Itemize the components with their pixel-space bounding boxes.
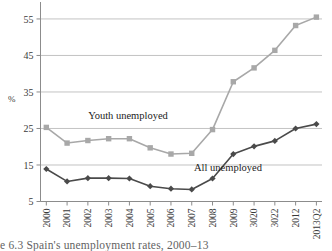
series-all-unemployed <box>43 121 319 193</box>
data-point-marker <box>251 65 256 70</box>
data-point-marker <box>147 183 153 189</box>
data-point-marker <box>210 127 215 132</box>
x-tick-label: 2013Q2 <box>312 208 322 239</box>
data-point-marker <box>106 136 111 141</box>
data-point-marker <box>106 175 112 181</box>
data-point-marker <box>147 145 152 150</box>
y-tick-label: 45 <box>24 50 34 61</box>
x-tick-label: 2004 <box>125 208 135 227</box>
y-tick-label: 35 <box>24 87 34 98</box>
data-point-marker <box>314 14 319 19</box>
x-tick-label: 3020 <box>249 208 259 227</box>
x-tick-label: 2005 <box>146 208 156 227</box>
x-tick-label: 2002 <box>83 208 93 227</box>
data-point-marker <box>272 48 277 53</box>
data-point-marker <box>231 79 236 84</box>
x-tick-label: 2009 <box>229 208 239 227</box>
x-tick-label: 2003 <box>104 208 114 227</box>
y-axis-ticks: 51525354555 <box>24 14 41 208</box>
x-tick-label: 2012 <box>291 208 301 227</box>
figure-caption: e 6.3 Spain's unemployment rates, 2000–1… <box>0 239 332 251</box>
x-axis-ticks <box>46 202 316 206</box>
x-tick-label: 2007 <box>187 208 197 227</box>
y-tick-label: 25 <box>24 123 34 134</box>
x-tick-label: 2001 <box>62 208 72 227</box>
data-point-marker <box>85 175 91 181</box>
y-tick-label: 5 <box>29 196 34 207</box>
series-youth-unemployed <box>44 14 319 156</box>
data-point-marker <box>313 121 319 127</box>
data-point-marker <box>168 151 173 156</box>
y-axis-unit-label: % <box>8 94 16 104</box>
data-point-marker <box>168 186 174 192</box>
data-series-group <box>43 14 319 192</box>
x-axis-tick-labels: 2000200120022003200420052006200720082009… <box>42 208 322 239</box>
y-tick-label: 15 <box>24 160 34 171</box>
data-point-marker <box>127 136 132 141</box>
x-tick-label: 3022 <box>270 208 280 227</box>
x-tick-label: 2000 <box>42 208 52 227</box>
data-point-marker <box>64 140 69 145</box>
y-tick-label: 55 <box>24 14 34 25</box>
x-tick-label: 2006 <box>166 208 176 227</box>
data-point-marker <box>189 186 195 192</box>
data-point-marker <box>44 125 49 130</box>
x-tick-label: 2008 <box>208 208 218 227</box>
series-line <box>46 17 316 154</box>
data-point-marker <box>251 143 257 149</box>
series-label-all-unemployed: All unemployed <box>194 162 263 173</box>
data-point-marker <box>189 151 194 156</box>
series-annotations-group: Youth unemployedAll unemployed <box>88 110 263 173</box>
data-point-marker <box>126 175 132 181</box>
data-point-marker <box>85 138 90 143</box>
data-point-marker <box>293 23 298 28</box>
series-label-youth-unemployed: Youth unemployed <box>88 110 168 121</box>
gridlines-group <box>41 19 323 202</box>
